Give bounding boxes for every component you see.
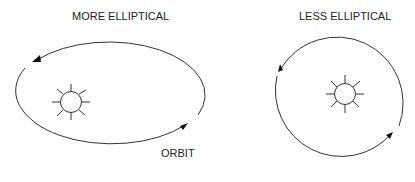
circular-orbit-upper-arc: [280, 37, 403, 126]
circular-orbit-lower-arc: [275, 76, 391, 156]
orbit-diagram: [0, 0, 415, 182]
elliptical-orbit-lower-arc: [16, 68, 185, 144]
sun-icon: [326, 75, 364, 113]
sun-icon: [52, 84, 90, 120]
orbit-arrow-icon: [278, 64, 283, 72]
orbit-arrow-icon: [180, 123, 188, 130]
elliptical-orbit-upper-arc: [37, 42, 205, 115]
orbit-arrow-icon: [32, 55, 41, 62]
